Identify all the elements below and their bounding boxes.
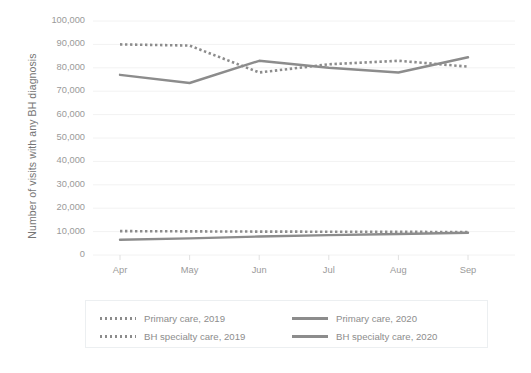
legend-line-swatch-solid (292, 335, 328, 338)
gridlines (93, 21, 515, 255)
y-axis-tick-label: 20,000 (0, 202, 85, 212)
x-axis-tick-label: Sep (438, 265, 498, 275)
y-axis-tick-label: 100,000 (0, 15, 85, 25)
y-axis-tick-label: 50,000 (0, 132, 85, 142)
y-axis-tick-label: 60,000 (0, 109, 85, 119)
legend-item[interactable]: Primary care, 2020 (292, 311, 417, 325)
chart-legend: Primary care, 2019Primary care, 2020BH s… (85, 300, 488, 348)
x-axis-tick-label: Jun (229, 265, 289, 275)
legend-item[interactable]: BH specialty care, 2019 (100, 329, 245, 343)
legend-item-label: Primary care, 2019 (144, 313, 225, 324)
y-axis-tick-label: 10,000 (0, 226, 85, 236)
y-axis-tick-label: 0 (0, 249, 85, 259)
legend-line-swatch-solid (292, 317, 328, 320)
legend-line-swatch-dotted (100, 317, 136, 320)
y-axis-tick-label: 30,000 (0, 179, 85, 189)
line-chart: Number of visits with any BH diagnosis 0… (0, 0, 531, 373)
y-axis-tick-label: 90,000 (0, 38, 85, 48)
y-axis-tick-label: 80,000 (0, 62, 85, 72)
x-axis-tick-label: Apr (90, 265, 150, 275)
series-line (120, 233, 468, 240)
legend-item[interactable]: BH specialty care, 2020 (292, 329, 437, 343)
legend-item[interactable]: Primary care, 2019 (100, 311, 225, 325)
x-axis-tick-marks (120, 255, 468, 260)
legend-item-label: BH specialty care, 2020 (336, 331, 437, 342)
data-series-group (120, 44, 468, 239)
x-axis-tick-label: Jul (299, 265, 359, 275)
legend-item-label: BH specialty care, 2019 (144, 331, 245, 342)
legend-item-label: Primary care, 2020 (336, 313, 417, 324)
y-axis-tick-label: 40,000 (0, 155, 85, 165)
legend-line-swatch-dotted (100, 335, 136, 338)
x-axis-tick-label: Aug (368, 265, 428, 275)
y-axis-tick-label: 70,000 (0, 85, 85, 95)
x-axis-tick-label: May (160, 265, 220, 275)
